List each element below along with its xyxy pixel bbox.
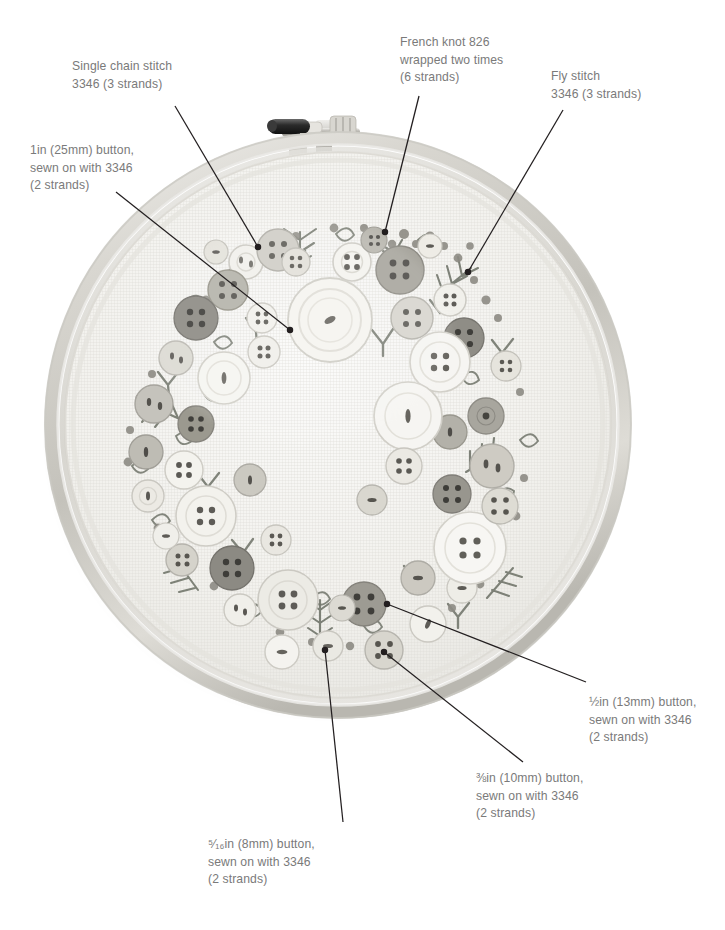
button [210,546,254,590]
button [153,523,179,549]
button [482,488,518,524]
button [234,464,266,496]
button [313,631,343,661]
button [166,544,198,576]
button [468,398,504,434]
button [401,561,435,595]
button [410,606,446,642]
button [329,595,355,621]
button [470,444,514,488]
callout-single-chain-stitch: Single chain stitch 3346 (3 strands) [72,58,172,93]
button [491,351,521,381]
button [224,594,256,626]
button [132,480,164,512]
button [386,448,422,484]
callout-fly-stitch: Fly stitch 3346 (3 strands) [551,68,641,103]
callout-french-knot-826: French knot 826 wrapped two times (6 str… [400,34,503,87]
button [433,475,471,513]
button [176,486,236,546]
button [135,385,173,423]
button [261,525,291,555]
button [258,570,318,630]
button [418,234,442,258]
callout-button-three-eighths-in: ⅜in (10mm) button, sewn on with 3346 (2 … [476,770,583,823]
embroidery-illustration [0,0,725,930]
button [165,451,203,489]
button [357,485,387,515]
callout-button-half-in: ½in (13mm) button, sewn on with 3346 (2 … [589,694,696,747]
callout-button-five-sixteenths-in: ⁵⁄₁₆in (8mm) button, sewn on with 3346 (… [208,836,315,889]
callout-button-1in: 1in (25mm) button, sewn on with 3346 (2 … [30,142,134,195]
button [265,635,299,669]
diagram-canvas: Single chain stitch 3346 (3 strands) 1in… [0,0,725,930]
button [129,435,163,469]
